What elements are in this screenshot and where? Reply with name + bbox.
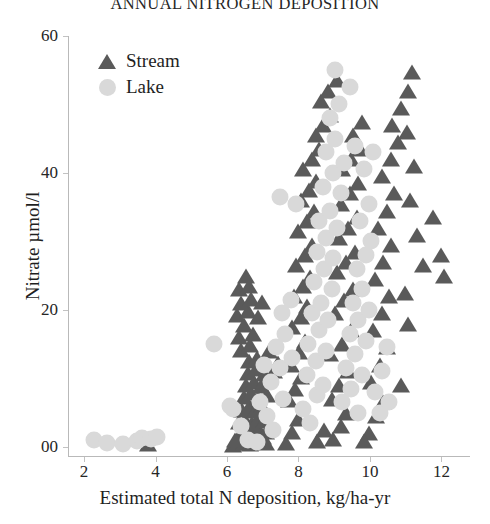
y-tick-mark: [63, 310, 68, 311]
circle-marker-icon: [95, 79, 119, 96]
data-point-stream: [237, 268, 255, 283]
y-tick-mark: [63, 447, 68, 448]
data-point-stream: [378, 203, 396, 218]
data-point-lake: [300, 336, 317, 353]
data-point-stream: [353, 114, 371, 129]
data-point-lake: [255, 356, 272, 373]
data-point-lake: [277, 325, 294, 342]
data-point-lake: [221, 397, 238, 414]
data-point-lake: [312, 294, 329, 311]
data-point-lake: [287, 195, 304, 212]
triangle-marker-icon: [95, 54, 119, 69]
legend-label-stream: Stream: [126, 50, 180, 72]
data-point-lake: [330, 96, 347, 113]
data-point-stream: [392, 100, 410, 115]
data-point-lake: [364, 144, 381, 161]
data-point-lake: [355, 161, 372, 178]
y-tick-mark: [63, 173, 68, 174]
data-point-stream: [408, 227, 426, 242]
data-point-stream: [405, 159, 423, 174]
x-tick-label: 12: [433, 462, 450, 482]
data-point-lake: [275, 390, 292, 407]
data-point-stream: [435, 268, 453, 283]
data-point-lake: [284, 349, 301, 366]
data-point-lake: [327, 130, 344, 147]
data-point-stream: [414, 258, 432, 273]
data-point-stream: [432, 248, 450, 263]
data-point-lake: [323, 281, 340, 298]
y-tick-label: 60: [18, 26, 58, 46]
data-point-stream: [424, 210, 442, 225]
data-point-lake: [352, 212, 369, 229]
data-point-stream: [253, 294, 271, 309]
data-point-lake: [332, 185, 349, 202]
chart-legend: Stream Lake: [95, 48, 180, 100]
data-point-lake: [325, 250, 342, 267]
data-point-stream: [392, 378, 410, 393]
data-point-lake: [271, 188, 288, 205]
data-point-lake: [329, 219, 346, 236]
data-point-lake: [336, 154, 353, 171]
data-point-stream: [401, 193, 419, 208]
data-point-stream: [382, 237, 400, 252]
legend-entry-stream: Stream: [95, 48, 180, 74]
y-axis-label: Nitrate µmol/l: [22, 116, 44, 376]
data-point-stream: [396, 285, 414, 300]
x-tick-label: 4: [151, 462, 160, 482]
data-point-lake: [148, 429, 165, 446]
data-point-lake: [98, 435, 115, 452]
data-point-lake: [341, 79, 358, 96]
legend-label-lake: Lake: [126, 76, 164, 98]
data-point-lake: [362, 233, 379, 250]
legend-entry-lake: Lake: [95, 74, 180, 100]
x-tick-label: 2: [80, 462, 89, 482]
scatter-chart-figure: ANNUAL NITROGEN DEPOSITION 2468101200204…: [0, 0, 490, 524]
data-point-lake: [321, 202, 338, 219]
data-point-lake: [380, 394, 397, 411]
data-point-lake: [361, 301, 378, 318]
data-point-lake: [354, 366, 371, 383]
y-tick-mark: [63, 36, 68, 37]
data-point-lake: [318, 342, 335, 359]
data-point-stream: [398, 124, 416, 139]
data-point-lake: [305, 274, 322, 291]
x-tick-label: 10: [361, 462, 378, 482]
data-point-lake: [354, 281, 371, 298]
data-point-lake: [350, 404, 367, 421]
data-point-stream: [332, 419, 350, 434]
data-point-lake: [379, 339, 396, 356]
data-point-stream: [373, 169, 391, 184]
data-point-lake: [327, 62, 344, 79]
data-point-lake: [282, 291, 299, 308]
data-point-lake: [205, 336, 222, 353]
data-point-lake: [320, 312, 337, 329]
data-point-stream: [374, 254, 392, 269]
data-point-lake: [248, 433, 265, 450]
data-point-lake: [343, 380, 360, 397]
data-point-lake: [302, 414, 319, 431]
data-point-stream: [382, 152, 400, 167]
y-tick-label: 00: [18, 437, 58, 457]
x-tick-label: 6: [223, 462, 232, 482]
data-point-lake: [346, 137, 363, 154]
data-point-lake: [346, 346, 363, 363]
x-tick-label: 8: [294, 462, 303, 482]
data-point-stream: [249, 309, 267, 324]
data-point-lake: [357, 332, 374, 349]
data-point-stream: [399, 316, 417, 331]
data-point-lake: [361, 195, 378, 212]
data-point-lake: [373, 363, 390, 380]
data-point-lake: [314, 178, 331, 195]
data-point-lake: [314, 377, 331, 394]
data-point-stream: [355, 433, 373, 448]
data-point-stream: [399, 83, 417, 98]
data-point-lake: [264, 421, 281, 438]
chart-title: ANNUAL NITROGEN DEPOSITION: [0, 0, 490, 14]
data-point-stream: [403, 64, 421, 79]
x-axis-label: Estimated total N deposition, kg/ha-yr: [0, 487, 490, 509]
